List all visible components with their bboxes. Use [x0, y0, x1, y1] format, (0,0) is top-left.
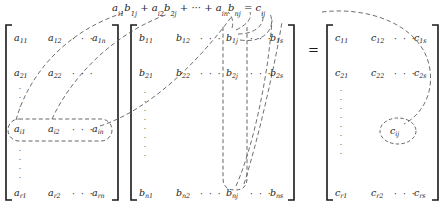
cell-b-n2: bn2 [176, 188, 190, 198]
row-dots-b-na: · · · [200, 189, 222, 199]
row-dots-a-r: · · · [72, 189, 94, 199]
cell-b-nj: bnj [226, 188, 238, 198]
cell-a-r1: ar1 [14, 188, 26, 198]
matrix-multiplication-figure: ai1b1j + ai2b2j + ··· + ainbnj = cij a11… [0, 0, 444, 205]
row-dots-b-1a: · · · [200, 34, 222, 44]
row-dots-b-1b: · · · [250, 34, 272, 44]
eq-equals: = [244, 2, 252, 13]
row-dots-a-1: · · · [72, 34, 94, 44]
cell-a-1n: a1n [92, 33, 105, 43]
equals-sign: = [308, 42, 319, 57]
matrix-b-brackets [131, 25, 294, 200]
col-dots-a-lower: ···· [16, 146, 24, 182]
cell-c-r2: cr2 [371, 188, 383, 198]
equation-expression: ai1b1j + ai2b2j + ··· + ainbnj = cij [112, 2, 265, 16]
cell-b-21: b21 [139, 68, 153, 78]
cell-a-in: ain [92, 124, 103, 134]
row-dots-a-2: · · · [72, 69, 94, 79]
cell-a-rn: arn [92, 188, 104, 198]
cell-b-11: b11 [139, 33, 153, 43]
cell-c-2s: c2s [414, 68, 426, 78]
cell-c-11: c11 [335, 33, 348, 43]
row-dots-b-nb: · · · [250, 189, 272, 199]
cell-a-12: a12 [48, 33, 61, 43]
eq-term-n: ainbnj [216, 2, 241, 13]
eq-term-2: ai2b2j [152, 2, 177, 13]
diagram-annotations [0, 0, 444, 205]
cell-c-21: c21 [335, 68, 348, 78]
eq-plus-3: + [204, 2, 212, 13]
eq-term-1: ai1b1j [112, 2, 137, 13]
row-dots-c-1: · · · [394, 34, 416, 44]
row-dots-b-2b: · · · [250, 69, 272, 79]
cell-b-1s: b1s [270, 33, 283, 43]
cell-c-22: c22 [371, 68, 384, 78]
cell-b-22: b22 [176, 68, 190, 78]
cell-b-1j: b1j [226, 33, 238, 43]
eq-ellipsis: ··· [191, 2, 201, 13]
col-dots-a-upper: ··· [16, 84, 24, 111]
cell-c-1s: c1s [414, 33, 426, 43]
cell-a-r2: ar2 [48, 188, 60, 198]
cell-a-i2: ai2 [48, 124, 59, 134]
eq-plus-1: + [140, 2, 148, 13]
row-dots-a-i: · · · [72, 125, 94, 135]
cell-c-12: c12 [371, 33, 384, 43]
row-dots-c-r: · · · [394, 189, 416, 199]
col-dots-b: ··· ··· ·· [141, 88, 149, 160]
cell-b-n1: bn1 [139, 188, 153, 198]
cell-c-rs: crs [414, 188, 425, 198]
eq-result: cij [256, 2, 266, 13]
col-dots-c: ··· ··· ·· [337, 86, 345, 158]
cell-b-12: b12 [176, 33, 190, 43]
cell-b-2j: b2j [226, 68, 238, 78]
row-dots-b-2a: · · · [200, 69, 222, 79]
cell-c-ij: cij [390, 126, 399, 136]
cell-a-11: a11 [14, 33, 27, 43]
cell-b-ns: bns [270, 188, 283, 198]
cell-b-2s: b2s [270, 68, 283, 78]
cell-a-21: a21 [14, 68, 27, 78]
cell-a-i1: ai1 [14, 124, 25, 134]
cell-c-r1: cr1 [335, 188, 347, 198]
row-dots-c-2: · · · [394, 69, 416, 79]
connector-curve-b-tail [244, 22, 282, 184]
cell-a-22: a22 [48, 68, 61, 78]
column-j-highlight [223, 27, 247, 190]
eq-plus-2: + [180, 2, 188, 13]
